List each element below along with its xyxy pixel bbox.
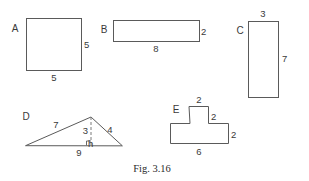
shape-d-label-height-foot: h	[88, 138, 93, 149]
shape-d-label-right-side: 4	[107, 124, 112, 135]
shape-d-label-left-side: 7	[53, 119, 58, 130]
shape-c-label-top: 3	[260, 8, 265, 19]
shape-a-label-bottom: 5	[51, 72, 56, 83]
shape-b-label-right: 2	[201, 26, 206, 37]
shape-d-letter: D	[22, 111, 29, 122]
shape-c-letter: C	[236, 25, 243, 36]
figure-caption: Fig. 3.16	[133, 163, 171, 174]
shape-e-label-stem-right: 2	[211, 111, 216, 122]
shape-a-letter: A	[12, 23, 19, 34]
shape-a-square	[27, 19, 82, 71]
geometry-figure: A 5 5 B 2 8 C 3 7 D 7 4 3 h 9 E 2 2 2 6 …	[0, 0, 309, 181]
shape-a-label-right: 5	[84, 39, 89, 50]
shape-e-letter: E	[173, 104, 180, 115]
shape-d-label-base: 9	[76, 147, 81, 158]
figure-container: A 5 5 B 2 8 C 3 7 D 7 4 3 h 9 E 2 2 2 6 …	[0, 0, 309, 181]
shape-d-label-height: 3	[83, 125, 88, 136]
shape-e-label-bar-right: 2	[231, 129, 236, 140]
shape-c-rectangle	[249, 22, 279, 98]
shape-b-label-bottom: 8	[153, 43, 158, 54]
shape-e-label-bottom: 6	[196, 146, 201, 157]
shape-c-label-right: 7	[282, 53, 287, 64]
shape-b-rectangle	[114, 21, 200, 42]
shape-b-letter: B	[101, 24, 108, 35]
shape-e-label-top: 2	[196, 94, 201, 105]
